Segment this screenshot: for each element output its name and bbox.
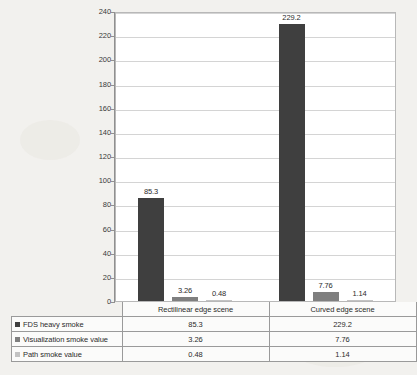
- y-axis-tick-100: 100: [78, 177, 111, 185]
- gridline-160: [116, 110, 395, 111]
- bar-0-0: [138, 198, 164, 301]
- y-axis-tick-220: 220: [78, 32, 111, 40]
- legend-label-2: Path smoke value: [23, 350, 82, 359]
- y-axis-tick-140: 140: [78, 129, 111, 137]
- legend-label-0: FDS heavy smoke: [23, 320, 84, 329]
- bar-1-1: [313, 292, 339, 301]
- bar-0-2: [206, 300, 232, 301]
- y-axis-tick-80: 80: [78, 202, 111, 210]
- bar-label-0-0: 85.3: [137, 187, 165, 196]
- data-table: Rectilinear edge sceneCurved edge sceneF…: [11, 302, 417, 362]
- gridline-220: [116, 37, 395, 38]
- gridline-180: [116, 86, 395, 87]
- table-cell-0-1: 229.2: [269, 317, 416, 332]
- y-axis-tick-200: 200: [78, 57, 111, 65]
- y-axis-tick-40: 40: [78, 250, 111, 258]
- table-cell-0-0: 85.3: [122, 317, 269, 332]
- legend-label-1: Visualization smoke value: [23, 335, 108, 344]
- table-cell-2-0: 0.48: [122, 347, 269, 362]
- bar-1-0: [279, 24, 305, 301]
- table-row: FDS heavy smoke85.3229.2: [12, 317, 417, 332]
- y-axis-tick-160: 160: [78, 105, 111, 113]
- bar-1-2: [347, 300, 373, 301]
- bar-label-1-0: 229.2: [278, 13, 306, 22]
- table-cell-1-1: 7.76: [269, 332, 416, 347]
- legend-swatch-icon-0: [15, 322, 20, 327]
- table-row: Visualization smoke value3.267.76: [12, 332, 417, 347]
- bar-label-0-2: 0.48: [205, 289, 233, 298]
- y-axis-tick-60: 60: [78, 226, 111, 234]
- plot-area: 85.33.260.48229.27.761.14: [115, 12, 396, 302]
- bar-0-1: [172, 297, 198, 301]
- gridline-120: [116, 158, 395, 159]
- legend-item-1: Visualization smoke value: [12, 332, 123, 347]
- table-cell-1-0: 3.26: [122, 332, 269, 347]
- scan-artifact: [20, 120, 80, 160]
- table-row: Path smoke value0.481.14: [12, 347, 417, 362]
- table-header-row: Rectilinear edge sceneCurved edge scene: [12, 302, 417, 317]
- bar-label-1-2: 1.14: [346, 289, 374, 298]
- gridline-200: [116, 61, 395, 62]
- category-header-0: Rectilinear edge scene: [122, 302, 269, 317]
- y-axis-tick-240: 240: [78, 8, 111, 16]
- gridline-100: [116, 182, 395, 183]
- legend-item-0: FDS heavy smoke: [12, 317, 123, 332]
- legend-swatch-icon-1: [15, 337, 20, 342]
- bar-label-1-1: 7.76: [312, 281, 340, 290]
- y-axis-tick-120: 120: [78, 153, 111, 161]
- bar-label-0-1: 3.26: [171, 286, 199, 295]
- category-header-1: Curved edge scene: [269, 302, 416, 317]
- table-corner-cell: [12, 302, 123, 317]
- legend-item-2: Path smoke value: [12, 347, 123, 362]
- gridline-140: [116, 134, 395, 135]
- y-axis-tick-180: 180: [78, 81, 111, 89]
- legend-swatch-icon-2: [15, 352, 20, 357]
- table-cell-2-1: 1.14: [269, 347, 416, 362]
- y-axis-tick-labels: 020406080100120140160180200220240: [78, 12, 111, 302]
- y-axis-tick-20: 20: [78, 274, 111, 282]
- gridline-240: [116, 13, 395, 14]
